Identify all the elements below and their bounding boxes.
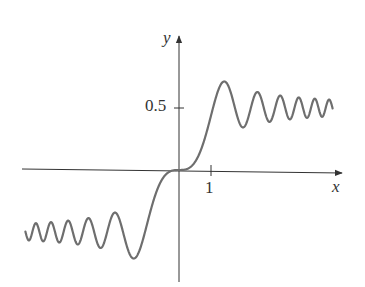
x-tick-label-1: 1 [205, 178, 214, 198]
plot-area [0, 0, 365, 287]
y-axis-label: y [163, 28, 171, 48]
fresnel-sine-integral-graph: y x 1 0.5 [0, 0, 365, 287]
y-tick-label-0-5: 0.5 [145, 96, 166, 116]
x-axis-label: x [332, 177, 340, 197]
